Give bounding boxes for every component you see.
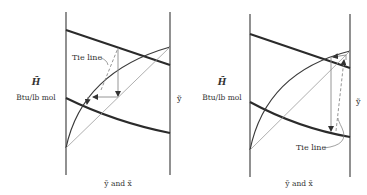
y-axis-unit: Btu/lb mol: [16, 93, 56, 102]
vapor-enthalpy-line: [250, 34, 350, 68]
tie-line: [101, 48, 118, 90]
enthalpy-composition-figure: Tie line H̃ Btu/lb mol ỹ ỹ and x̃ Tie li…: [0, 0, 367, 195]
tie-line-label: Tie line: [296, 143, 326, 152]
liquid-enthalpy-curve: [66, 98, 170, 133]
x-axis-label: ỹ and x̃: [103, 179, 132, 188]
y-axis-unit: Btu/lb mol: [202, 93, 242, 102]
x-axis-label: ỹ and x̃: [284, 179, 313, 188]
liquid-enthalpy-curve: [250, 102, 350, 137]
y-axis-symbol: H̃: [31, 76, 41, 87]
left-panel: Tie line H̃ Btu/lb mol ỹ ỹ and x̃: [16, 12, 182, 188]
right-panel: Tie line H̃ Btu/lb mol ỹ ỹ and x̃: [202, 14, 361, 188]
right-axis-label: ỹ: [355, 97, 361, 106]
tie-line: [336, 60, 344, 131]
tie-line-label: Tie line: [72, 53, 102, 62]
small-step-arrow: [87, 97, 88, 104]
y-axis-symbol: H̃: [217, 76, 227, 87]
diagonal-line: [250, 51, 350, 150]
right-axis-label: ỹ: [176, 94, 182, 103]
